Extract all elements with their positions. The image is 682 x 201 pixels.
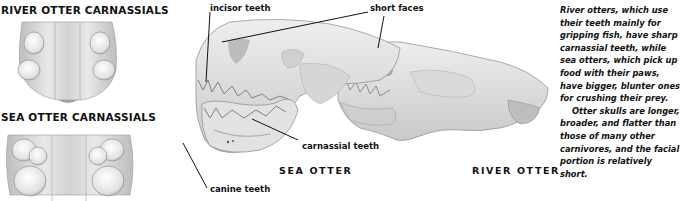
sea-otter-label: SEA OTTER: [279, 165, 352, 176]
caption-text: River otters, which use their teeth main…: [560, 4, 682, 180]
canine-leader-line: [183, 143, 207, 188]
incisor-teeth-label: incisor teeth: [210, 3, 271, 13]
river-otter-palate-drawing: [18, 22, 117, 103]
short-faces-label: short faces: [370, 3, 423, 13]
carnassial-teeth-label: carnassial teeth: [302, 141, 379, 151]
river-otter-label: RIVER OTTER: [472, 165, 560, 176]
caption-paragraph-1: River otters, which use their teeth main…: [560, 4, 682, 105]
caption-paragraph-2: Otter skulls are longer, broader, and fl…: [560, 105, 682, 181]
sea-otter-palate-drawing: [6, 135, 133, 201]
canine-teeth-label: canine teeth: [210, 184, 270, 194]
